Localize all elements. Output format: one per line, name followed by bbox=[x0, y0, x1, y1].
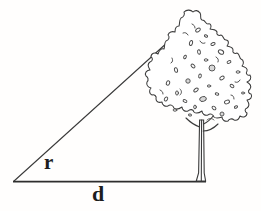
tree-crown-outline bbox=[145, 10, 251, 121]
branch-stub-right bbox=[204, 115, 214, 124]
branch-stub-left bbox=[186, 118, 200, 127]
angle-label-r: r bbox=[44, 152, 53, 173]
base-label-d: d bbox=[92, 183, 104, 205]
diagram-canvas: r d bbox=[0, 0, 261, 211]
branch-stub-right-2 bbox=[203, 124, 218, 131]
triangle-tree-diagram bbox=[0, 0, 261, 211]
